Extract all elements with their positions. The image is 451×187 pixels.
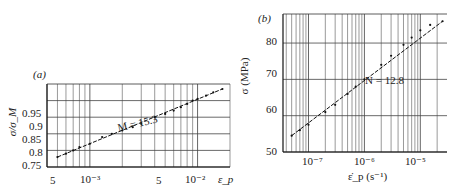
y-tick-b-2: 60 — [266, 103, 277, 115]
panel-label-a: (a) — [33, 68, 46, 80]
y-axis-label-a: σ/σ_M — [6, 108, 18, 137]
panel-label-b: (b) — [258, 12, 271, 24]
x-tick-a-2: 5 — [156, 174, 162, 186]
y-tick-a-3: 0.8 — [29, 146, 43, 158]
x-tick-b-2: 10⁻⁵ — [405, 155, 426, 168]
x-tick-a-0: 5 — [50, 174, 56, 186]
y-tick-a-4: 0.75 — [22, 159, 41, 171]
x-axis-label-b: ε̇_p (s⁻¹) — [348, 170, 387, 183]
y-tick-b-3: 50 — [266, 145, 277, 157]
y-tick-b-1: 70 — [266, 67, 277, 79]
x-tick-b-0: 10⁻⁷ — [302, 155, 323, 168]
x-tick-a-1: 10⁻³ — [80, 173, 100, 186]
y-tick-b-0: 80 — [266, 35, 277, 47]
x-tick-a-3: 10⁻² — [185, 173, 205, 186]
x-axis-label-a: ε_p — [218, 173, 233, 185]
annotation-b: N = 12.8 — [365, 74, 404, 86]
chart-panel-b: (b) σ (MPa) 80 70 60 50 10⁻⁷ 10⁻⁶ 10⁻⁵ ε… — [240, 0, 451, 187]
chart-panel-a: (a) σ/σ_M 0.95 0.9 0.85 0.8 0.75 5 10⁻³ … — [0, 0, 240, 187]
y-axis-label-b: σ (MPa) — [238, 58, 250, 95]
y-tick-a-2: 0.85 — [22, 133, 41, 145]
x-tick-b-1: 10⁻⁶ — [354, 155, 375, 168]
y-tick-a-0: 0.95 — [22, 107, 41, 119]
y-tick-a-1: 0.9 — [29, 120, 43, 132]
